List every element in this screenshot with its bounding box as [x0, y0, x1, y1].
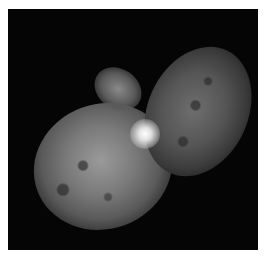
nebula-photo — [8, 9, 258, 250]
dust-texture — [8, 9, 258, 250]
